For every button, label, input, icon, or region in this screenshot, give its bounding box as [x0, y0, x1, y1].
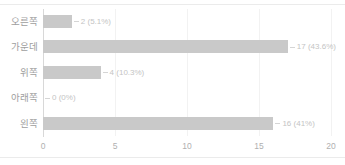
bar-위쪽[interactable]: [43, 66, 101, 79]
x-axis-tick-0: 0: [41, 141, 46, 151]
bar-row: 16 (41%): [43, 111, 331, 136]
y-axis-label-3: 아래쪽: [0, 85, 38, 110]
bar-row: 0 (0%): [43, 85, 331, 110]
bar-value-label: 4 (10.3%): [103, 66, 145, 79]
label-leader-line: [275, 123, 280, 124]
bar-value-text: 0 (0%): [52, 93, 76, 102]
bar-value-label: 17 (43.6%): [290, 40, 336, 53]
bar-value-text: 17 (43.6%): [297, 42, 336, 51]
y-axis-label-4: 왼쪽: [0, 111, 38, 136]
bar-value-label: 16 (41%): [275, 117, 314, 130]
bar-value-text: 4 (10.3%): [110, 68, 145, 77]
x-axis-tick-20: 20: [326, 141, 335, 151]
bar-가운데[interactable]: [43, 40, 288, 53]
bar-value-text: 2 (5.1%): [81, 17, 111, 26]
label-leader-line: [74, 21, 79, 22]
chart-frame-bottom-border: [0, 157, 345, 158]
label-leader-line: [103, 72, 108, 73]
bar-왼쪽[interactable]: [43, 117, 273, 130]
chart-frame-top-border: [0, 4, 345, 5]
y-axis-label-2: 위쪽: [0, 60, 38, 85]
bar-value-label: 2 (5.1%): [74, 15, 111, 28]
bar-오른쪽[interactable]: [43, 15, 72, 28]
y-axis-label-1: 가운데: [0, 34, 38, 59]
bar-chart: 2 (5.1%)17 (43.6%)4 (10.3%)0 (0%)16 (41%…: [0, 0, 345, 165]
bar-row: 17 (43.6%): [43, 34, 331, 59]
label-leader-line: [45, 98, 50, 99]
bar-row: 4 (10.3%): [43, 60, 331, 85]
label-leader-line: [290, 47, 295, 48]
bar-value-label: 0 (0%): [45, 91, 76, 104]
y-axis-label-0: 오른쪽: [0, 9, 38, 34]
plot-area: 2 (5.1%)17 (43.6%)4 (10.3%)0 (0%)16 (41%…: [43, 9, 331, 136]
bar-value-text: 16 (41%): [282, 119, 314, 128]
x-axis-tick-10: 10: [182, 141, 191, 151]
x-axis-tick-15: 15: [254, 141, 263, 151]
x-axis-tick-5: 5: [113, 141, 118, 151]
gridline-20: [331, 9, 332, 136]
bar-row: 2 (5.1%): [43, 9, 331, 34]
